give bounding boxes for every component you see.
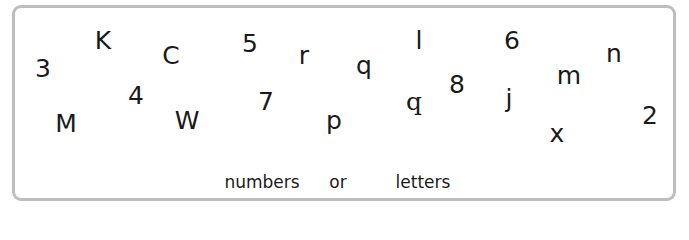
glyph-7: 7 — [258, 89, 274, 114]
glyph-W: W — [175, 108, 200, 133]
glyph-q: q — [356, 53, 372, 78]
glyph-l: l — [416, 28, 423, 53]
glyph-5: 5 — [242, 31, 258, 56]
glyph-K: K — [95, 28, 111, 53]
glyph-2: 2 — [642, 103, 658, 128]
glyph-M: M — [55, 111, 77, 136]
glyph-6: 6 — [504, 28, 520, 53]
glyph-r: r — [299, 43, 309, 68]
caption-word-numbers: numbers — [224, 172, 299, 192]
caption-word-or: or — [329, 172, 346, 192]
glyph-q: q — [406, 89, 422, 114]
glyph-m: m — [557, 63, 581, 88]
glyph-4: 4 — [128, 83, 144, 108]
caption-word-letters: letters — [396, 172, 451, 192]
glyph-x: x — [550, 121, 565, 146]
glyph-j: j — [506, 86, 513, 111]
glyph-n: n — [606, 41, 622, 66]
glyph-8: 8 — [449, 72, 465, 97]
glyph-3: 3 — [35, 56, 51, 81]
glyph-p: p — [326, 108, 342, 133]
glyph-C: C — [162, 43, 179, 68]
